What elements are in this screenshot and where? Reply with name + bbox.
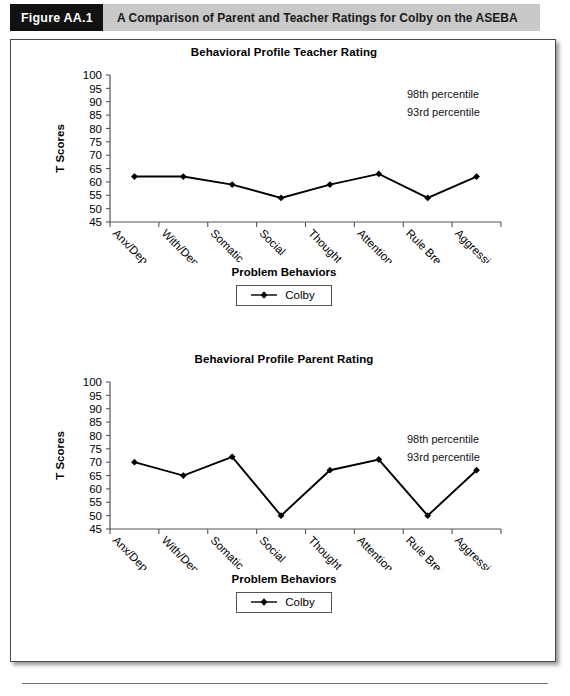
y-tick-label: 80 — [89, 430, 102, 442]
x-tick-label: Rule Break — [404, 227, 453, 263]
x-tick-label: Somatic — [208, 534, 246, 570]
x-tick-label: Attention — [355, 534, 396, 570]
data-point-marker — [473, 173, 480, 180]
data-point-marker — [131, 459, 138, 466]
x-tick-label: With/Dep — [159, 534, 201, 570]
chart-title-teacher: Behavioral Profile Teacher Rating — [11, 46, 557, 58]
data-point-marker — [180, 472, 187, 479]
legend-line-marker-icon — [251, 597, 277, 607]
y-tick-label: 55 — [89, 189, 102, 201]
y-tick-label: 100 — [83, 376, 102, 388]
annotation-93rd-teacher: 93rd percentile — [407, 106, 480, 118]
figure-content-panel: Behavioral Profile Teacher Rating 455055… — [10, 39, 556, 662]
chart-parent-rating: Behavioral Profile Parent Rating 4550556… — [11, 353, 557, 663]
data-point-marker — [229, 181, 236, 188]
y-tick-label: 55 — [89, 496, 102, 508]
y-tick-label: 65 — [89, 470, 102, 482]
page-bottom-rule — [22, 683, 548, 684]
y-tick-label: 80 — [89, 123, 102, 135]
x-tick-label: Anx/Dep — [111, 227, 151, 263]
x-tick-label: Social — [257, 534, 288, 565]
y-tick-label: 75 — [89, 136, 102, 148]
figure-number-badge: Figure AA.1 — [10, 4, 103, 31]
y-tick-label: 95 — [89, 390, 102, 402]
y-tick-label: 45 — [89, 523, 102, 535]
y-tick-label: 90 — [89, 403, 102, 415]
y-axis-title: T Scores — [54, 431, 66, 480]
data-point-marker — [375, 170, 382, 177]
x-tick-label: Social — [257, 227, 288, 258]
chart-title-parent: Behavioral Profile Parent Rating — [11, 353, 557, 365]
annotation-98th-parent: 98th percentile — [407, 433, 479, 445]
y-axis-title: T Scores — [54, 124, 66, 173]
x-tick-label: Aggression — [453, 534, 502, 570]
y-tick-label: 50 — [89, 203, 102, 215]
plot-svg-parent: 4550556065707580859095100T ScoresAnx/Dep… — [11, 365, 557, 570]
x-tick-label: Thought — [306, 227, 345, 263]
plot-area-parent: 4550556065707580859095100T ScoresAnx/Dep… — [11, 365, 557, 570]
legend-label-parent: Colby — [285, 596, 314, 608]
y-tick-label: 50 — [89, 510, 102, 522]
x-axis-title-teacher: Problem Behaviors — [11, 266, 557, 278]
y-tick-label: 70 — [89, 149, 102, 161]
y-tick-label: 65 — [89, 163, 102, 175]
figure-caption-text: A Comparison of Parent and Teacher Ratin… — [103, 4, 518, 31]
y-tick-label: 85 — [89, 109, 102, 121]
annotation-98th-teacher: 98th percentile — [407, 88, 479, 100]
x-tick-label: Somatic — [208, 227, 246, 263]
data-point-marker — [131, 173, 138, 180]
x-axis-title-parent: Problem Behaviors — [11, 573, 557, 585]
x-tick-label: With/Dep — [159, 227, 201, 263]
data-point-marker — [327, 181, 334, 188]
data-point-marker — [424, 195, 431, 202]
x-tick-label: Anx/Dep — [111, 534, 151, 570]
legend-box-parent: Colby — [236, 592, 331, 613]
series-line-colby — [134, 457, 476, 516]
y-tick-label: 75 — [89, 443, 102, 455]
annotation-93rd-parent: 93rd percentile — [407, 451, 480, 463]
legend-parent: Colby — [11, 592, 557, 613]
legend-label-teacher: Colby — [285, 289, 314, 301]
x-tick-label: Thought — [306, 534, 345, 570]
y-tick-label: 60 — [89, 483, 102, 495]
data-point-marker — [180, 173, 187, 180]
legend-line-marker-icon — [251, 290, 277, 300]
data-point-marker — [278, 195, 285, 202]
y-tick-label: 70 — [89, 456, 102, 468]
chart-teacher-rating: Behavioral Profile Teacher Rating 455055… — [11, 46, 557, 353]
y-tick-label: 45 — [89, 216, 102, 228]
y-tick-label: 60 — [89, 176, 102, 188]
x-tick-label: Rule Break — [404, 534, 453, 570]
y-tick-label: 85 — [89, 416, 102, 428]
legend-box-teacher: Colby — [236, 285, 331, 306]
y-tick-label: 100 — [83, 69, 102, 81]
legend-teacher: Colby — [11, 285, 557, 306]
plot-area-teacher: 4550556065707580859095100T ScoresAnx/Dep… — [11, 58, 557, 263]
x-tick-label: Attention — [355, 227, 396, 263]
y-tick-label: 95 — [89, 83, 102, 95]
x-tick-label: Aggression — [453, 227, 502, 263]
figure-caption-bar: Figure AA.1 A Comparison of Parent and T… — [10, 4, 540, 31]
y-tick-label: 90 — [89, 96, 102, 108]
